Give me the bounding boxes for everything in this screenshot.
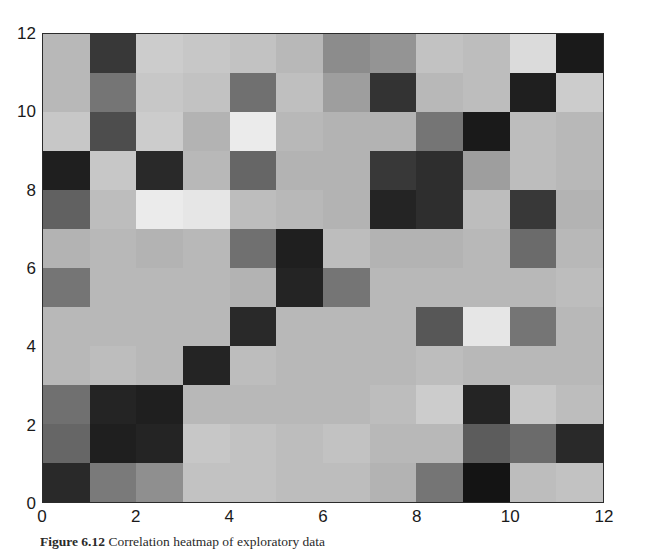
heatmap-cell (463, 73, 510, 112)
heatmap-cell (370, 346, 417, 385)
heatmap-cell (556, 229, 603, 268)
heatmap-cell (416, 229, 463, 268)
heatmap-cell (276, 424, 323, 463)
heatmap-cell (323, 346, 370, 385)
heatmap-cell (510, 268, 557, 307)
heatmap-cell (510, 112, 557, 151)
heatmap-cell (136, 112, 183, 151)
heatmap-cell (276, 229, 323, 268)
y-tick-label: 8 (0, 181, 36, 198)
heatmap-cell (183, 346, 230, 385)
heatmap-cell (90, 346, 137, 385)
heatmap-cell (276, 307, 323, 346)
heatmap-cell (43, 190, 90, 229)
heatmap-cell (416, 424, 463, 463)
heatmap-cell (556, 112, 603, 151)
heatmap-cell (323, 112, 370, 151)
heatmap-cell (556, 385, 603, 424)
heatmap-cell (463, 151, 510, 190)
heatmap-cell (510, 229, 557, 268)
heatmap-cell (43, 112, 90, 151)
y-tick-label: 6 (0, 260, 36, 277)
x-tick-label: 6 (303, 508, 343, 525)
heatmap-cell (556, 463, 603, 502)
heatmap-cell (370, 229, 417, 268)
heatmap-cell (183, 112, 230, 151)
heatmap-cell (230, 229, 277, 268)
heatmap-cell (463, 229, 510, 268)
heatmap-cell (183, 73, 230, 112)
heatmap-cell (323, 229, 370, 268)
heatmap-cell (183, 151, 230, 190)
heatmap-cell (323, 268, 370, 307)
x-tick-label: 8 (397, 508, 437, 525)
heatmap-cell (230, 34, 277, 73)
heatmap-cell (510, 307, 557, 346)
heatmap-cell (510, 346, 557, 385)
heatmap-cell (276, 73, 323, 112)
heatmap-cell (43, 268, 90, 307)
heatmap-cell (370, 151, 417, 190)
heatmap-cell (43, 385, 90, 424)
heatmap-cell (323, 424, 370, 463)
heatmap-cell (370, 190, 417, 229)
heatmap-cell (463, 463, 510, 502)
heatmap-cell (556, 268, 603, 307)
x-axis-tick-labels: 024681012 (0, 508, 650, 532)
heatmap-cell (416, 190, 463, 229)
heatmap-cell (556, 346, 603, 385)
heatmap-cell (323, 190, 370, 229)
caption-text: Correlation heatmap of exploratory data (105, 534, 325, 549)
heatmap-cell (556, 34, 603, 73)
heatmap-cell (323, 34, 370, 73)
heatmap-cell (463, 307, 510, 346)
heatmap-cell (230, 73, 277, 112)
heatmap-cell (230, 307, 277, 346)
heatmap-cell (370, 34, 417, 73)
heatmap-cell (230, 346, 277, 385)
heatmap-cell (230, 190, 277, 229)
heatmap-cell (510, 34, 557, 73)
heatmap-cell (276, 34, 323, 73)
heatmap-cell (510, 385, 557, 424)
heatmap-cell (416, 151, 463, 190)
heatmap-cell (276, 151, 323, 190)
heatmap-cell (183, 190, 230, 229)
heatmap-cell (510, 73, 557, 112)
heatmap-cell (370, 73, 417, 112)
heatmap-cell (556, 73, 603, 112)
heatmap-cell (90, 34, 137, 73)
heatmap-cell (136, 385, 183, 424)
heatmap-cell (416, 34, 463, 73)
heatmap-cell (230, 463, 277, 502)
heatmap-cell (463, 424, 510, 463)
heatmap-cell (136, 268, 183, 307)
caption-label: Figure 6.12 (40, 534, 105, 549)
heatmap-cell (510, 463, 557, 502)
y-axis-tick-labels: 024681012 (0, 0, 36, 549)
heatmap-cell (183, 34, 230, 73)
heatmap-cell (416, 463, 463, 502)
heatmap-cell (90, 73, 137, 112)
heatmap-cell (183, 307, 230, 346)
heatmap-cell (43, 346, 90, 385)
heatmap-cell (416, 307, 463, 346)
heatmap-cell (183, 424, 230, 463)
heatmap-cell (230, 151, 277, 190)
heatmap-cell (136, 307, 183, 346)
heatmap-cell (370, 112, 417, 151)
y-tick-label: 4 (0, 338, 36, 355)
heatmap-cell (416, 73, 463, 112)
heatmap-cell (136, 190, 183, 229)
heatmap-cell (43, 229, 90, 268)
heatmap-cell (510, 190, 557, 229)
heatmap-cell (323, 307, 370, 346)
x-tick-label: 4 (209, 508, 249, 525)
heatmap-cell (370, 424, 417, 463)
heatmap-cell (323, 385, 370, 424)
heatmap-cell (90, 151, 137, 190)
heatmap-cell (43, 34, 90, 73)
y-tick-label: 2 (0, 416, 36, 433)
heatmap-cell (183, 268, 230, 307)
heatmap-cell (463, 34, 510, 73)
